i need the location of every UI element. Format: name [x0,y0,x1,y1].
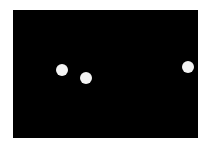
game-canvas[interactable] [13,10,198,138]
ball [80,72,92,84]
ball [56,64,68,76]
ball [182,61,194,73]
